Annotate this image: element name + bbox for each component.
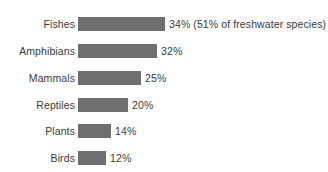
bar-track [78, 98, 128, 112]
bar-fill [78, 151, 106, 165]
bar-fill [78, 71, 141, 85]
bar-value-label: 32% [161, 44, 182, 58]
bar-fill [78, 17, 165, 31]
bar-category-label: Birds [0, 151, 75, 165]
bar-value-label: 25% [145, 71, 166, 85]
bar-row: Plants 14% [0, 124, 328, 138]
bar-track [78, 44, 157, 58]
bar-value-label: 14% [115, 124, 136, 138]
bar-category-label: Plants [0, 124, 75, 138]
bar-row: Reptiles 20% [0, 98, 328, 112]
bar-track [78, 124, 111, 138]
bar-value-label: 20% [132, 98, 153, 112]
bar-fill [78, 98, 128, 112]
horizontal-bar-chart: Fishes 34% (51% of freshwater species) A… [0, 0, 328, 172]
bar-value-label: 34% (51% of freshwater species) [169, 17, 326, 31]
bar-value-label: 12% [110, 151, 131, 165]
bar-row: Amphibians 32% [0, 44, 328, 58]
bar-track [78, 17, 165, 31]
bar-category-label: Fishes [0, 17, 75, 31]
bar-category-label: Reptiles [0, 98, 75, 112]
bar-row: Fishes 34% (51% of freshwater species) [0, 17, 328, 31]
bar-track [78, 71, 141, 85]
bar-category-label: Mammals [0, 71, 75, 85]
bar-row: Birds 12% [0, 151, 328, 165]
bar-fill [78, 44, 157, 58]
bar-track [78, 151, 106, 165]
bar-fill [78, 124, 111, 138]
bar-row: Mammals 25% [0, 71, 328, 85]
bar-category-label: Amphibians [0, 44, 75, 58]
